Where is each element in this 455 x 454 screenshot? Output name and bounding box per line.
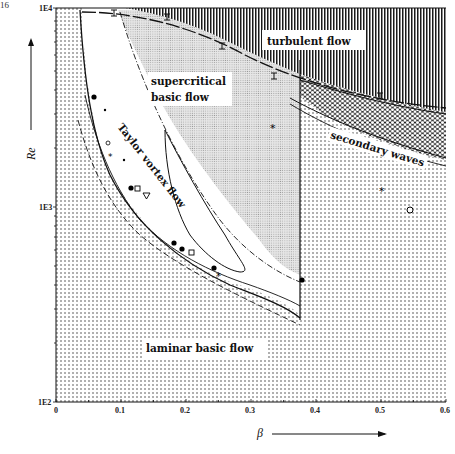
laminar-flow-label: laminar basic flow: [146, 342, 254, 354]
open-square-marker: [189, 250, 194, 255]
asterisk-marker: *: [379, 185, 385, 198]
x-tick-label: 0.2: [180, 406, 190, 415]
y-tick-label: 1E2: [38, 398, 51, 407]
x-tick-label: 0.6: [440, 406, 450, 415]
y-tick-label: 1E4: [39, 4, 52, 13]
filled-circle-marker: [128, 185, 133, 190]
open-square-marker: [135, 186, 140, 191]
open-circle-marker: [407, 207, 413, 213]
asterisk-marker: *: [216, 271, 221, 282]
page-number: 16: [0, 0, 10, 10]
filled-circle-marker: [211, 265, 216, 270]
plot-area: * * * * turbulent flow supercritical bas…: [56, 8, 446, 402]
filled-circle-marker: [91, 94, 96, 99]
x-tick-label: 0: [54, 406, 58, 415]
asterisk-marker: *: [108, 152, 113, 162]
asterisk-marker: *: [270, 122, 276, 135]
filled-circle-marker: [179, 246, 184, 251]
x-axis-label: β: [256, 426, 263, 440]
x-tick-label: 0.1: [115, 406, 125, 415]
stability-diagram: 16: [0, 0, 455, 454]
x-tick-label: 0.4: [310, 406, 320, 415]
y-arrowhead-icon: [28, 38, 34, 46]
filled-circle-marker: [299, 277, 304, 282]
open-circle-marker: [106, 141, 110, 145]
x-tick-label: 0.3: [245, 406, 255, 415]
y-tick-label: 1E3: [39, 203, 52, 212]
supercritical-label-line1: supercritical: [151, 75, 226, 87]
y-axis-label: Re: [24, 147, 38, 161]
x-tick-label: 0.5: [375, 406, 385, 415]
small-dot-marker: [123, 159, 125, 161]
small-dot-marker: [104, 109, 106, 111]
x-arrowhead-icon: [378, 431, 387, 437]
turbulent-flow-label: turbulent flow: [267, 35, 351, 47]
filled-circle-marker: [171, 240, 176, 245]
supercritical-label-line2: basic flow: [151, 91, 210, 103]
